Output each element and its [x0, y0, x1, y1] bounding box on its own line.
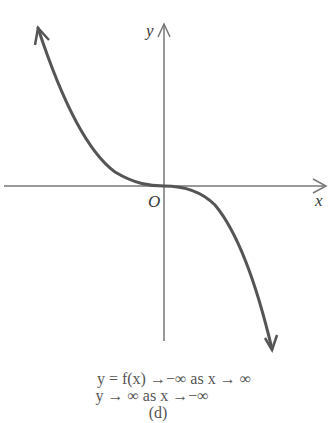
caption-line-2: y → ∞ as x →−∞ — [0, 387, 332, 404]
caption: y = f(x) →−∞ as x → ∞ y → ∞ as x →−∞ (d) — [0, 370, 332, 421]
panel-label: (d) — [0, 404, 332, 421]
x-axis-label: x — [315, 192, 323, 209]
graph-canvas — [0, 0, 332, 423]
function-curve — [38, 28, 272, 349]
origin-label: O — [148, 193, 160, 210]
y-axis-label: y — [146, 22, 154, 39]
caption-line-1: y = f(x) →−∞ as x → ∞ — [16, 370, 332, 387]
